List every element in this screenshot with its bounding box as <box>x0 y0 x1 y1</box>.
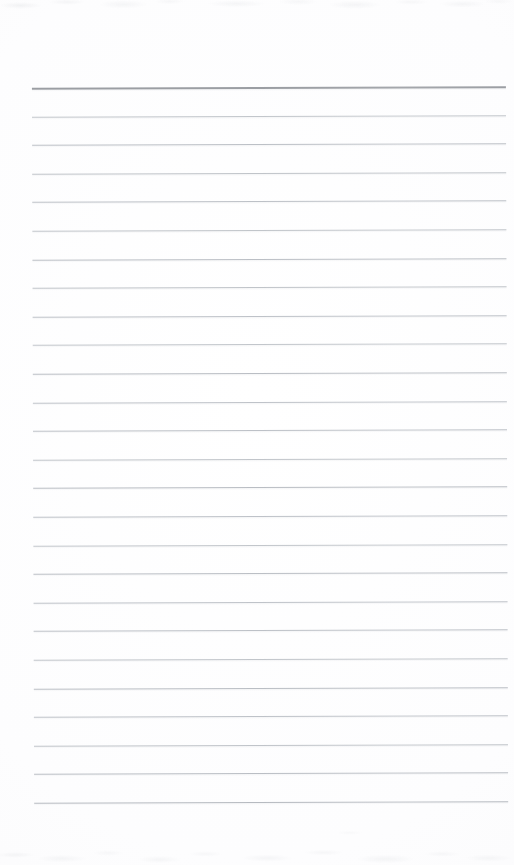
ruled-line <box>33 487 507 489</box>
ruled-line <box>33 572 507 574</box>
ruled-line <box>33 286 507 288</box>
ruled-line <box>32 201 506 203</box>
ruled-line-area <box>0 0 514 865</box>
header-rule <box>32 86 506 89</box>
ruled-line <box>34 687 508 689</box>
ruled-line <box>32 258 506 260</box>
ruled-line <box>33 401 507 403</box>
ruled-line <box>34 658 508 660</box>
ruled-line <box>33 544 507 546</box>
ruled-line <box>34 715 508 717</box>
ruled-line <box>32 229 506 231</box>
ruled-line <box>34 801 508 803</box>
ruled-line <box>33 344 507 346</box>
ruled-line <box>34 601 508 603</box>
ruled-line <box>33 458 507 460</box>
scan-noise-bottom-edge <box>0 819 514 865</box>
ruled-line <box>33 429 507 431</box>
scanned-page <box>0 0 514 865</box>
ruled-line <box>33 315 507 317</box>
ruled-line <box>34 630 508 632</box>
ruled-line <box>32 115 506 117</box>
ruled-line <box>32 172 506 174</box>
ruled-line <box>34 744 508 746</box>
ruled-line <box>34 773 508 775</box>
ruled-line <box>32 143 506 145</box>
ruled-line <box>33 515 507 517</box>
ruled-line <box>33 372 507 374</box>
